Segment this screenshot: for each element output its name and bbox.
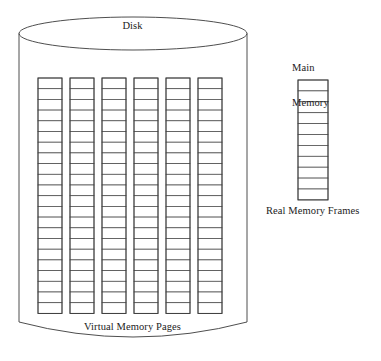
page-cell [166,281,190,292]
disk-label: Disk [0,20,265,32]
page-cell [102,89,126,100]
page-cell [166,217,190,228]
page-cell [38,260,62,271]
page-cell [166,153,190,164]
page-cell [134,132,158,143]
page-cell [166,196,190,207]
page-cell [198,174,222,185]
page-cell [134,196,158,207]
page-cell [102,142,126,153]
page-cell [70,153,94,164]
page-cell [198,121,222,132]
page-cell [198,260,222,271]
page-cell [38,292,62,303]
page-cell [134,303,158,314]
page-cell [134,228,158,239]
page-cell [134,99,158,110]
page-cell [198,142,222,153]
page-cell [166,174,190,185]
page-cell [38,271,62,282]
memory-frame-cell [298,189,328,200]
page-cell [166,292,190,303]
page-column [166,78,190,313]
memory-frame-cell [298,167,328,178]
page-cell [134,121,158,132]
page-cell [166,249,190,260]
page-cell [70,110,94,121]
page-cell [70,121,94,132]
page-cell [198,217,222,228]
virtual-memory-pages-label: Virtual Memory Pages [0,321,265,333]
page-cell [198,281,222,292]
page-cell [38,281,62,292]
page-cell [38,228,62,239]
page-cell [38,303,62,314]
page-cell [70,132,94,143]
page-cell [70,196,94,207]
page-cell [134,217,158,228]
page-cell [38,249,62,260]
page-cell [38,239,62,250]
page-cell [134,206,158,217]
page-column [198,78,222,313]
page-cell [102,217,126,228]
page-cell [38,196,62,207]
page-cell [70,292,94,303]
virtual-memory-page-columns [38,78,222,313]
page-cell [198,132,222,143]
page-cell [38,206,62,217]
page-cell [166,142,190,153]
main-memory-label-line2: Memory [292,97,329,109]
page-cell [198,206,222,217]
page-cell [38,153,62,164]
page-cell [198,196,222,207]
page-cell [70,164,94,175]
page-cell [70,260,94,271]
page-cell [134,142,158,153]
page-cell [166,110,190,121]
page-cell [134,271,158,282]
page-cell [102,292,126,303]
page-column [70,78,94,313]
page-cell [134,249,158,260]
page-cell [70,206,94,217]
page-cell [38,217,62,228]
page-cell [38,121,62,132]
page-cell [102,78,126,89]
page-cell [166,228,190,239]
main-memory-label-line1: Main [292,62,329,74]
page-cell [198,78,222,89]
page-cell [70,142,94,153]
page-cell [134,185,158,196]
page-cell [166,99,190,110]
page-cell [198,271,222,282]
page-cell [70,239,94,250]
page-cell [102,185,126,196]
page-cell [198,228,222,239]
memory-frame-cell [298,135,328,146]
page-cell [102,281,126,292]
main-memory-label: Main Memory [292,38,329,132]
page-column [102,78,126,313]
page-column [134,78,158,313]
page-cell [166,206,190,217]
page-cell [198,164,222,175]
page-cell [134,110,158,121]
page-cell [102,271,126,282]
page-cell [134,239,158,250]
page-cell [102,132,126,143]
page-cell [166,164,190,175]
page-cell [134,174,158,185]
page-cell [198,303,222,314]
page-cell [166,239,190,250]
page-cell [166,89,190,100]
page-cell [198,99,222,110]
page-cell [166,271,190,282]
page-column [38,78,62,313]
page-cell [38,174,62,185]
page-cell [166,185,190,196]
page-cell [102,196,126,207]
page-cell [102,206,126,217]
page-cell [198,249,222,260]
page-cell [38,142,62,153]
